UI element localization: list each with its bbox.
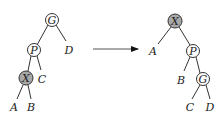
edge-g-d bbox=[206, 85, 210, 99]
edge-x-p bbox=[179, 27, 190, 45]
after-tree: X P G A B C D bbox=[148, 14, 215, 114]
node-x-label: X bbox=[170, 15, 180, 28]
subtree-d-label: D bbox=[205, 101, 215, 114]
node-g-label: G bbox=[48, 14, 57, 27]
edge-p-x bbox=[28, 56, 31, 71]
node-g-label: G bbox=[199, 73, 208, 86]
edge-x-a bbox=[158, 27, 171, 44]
subtree-c-label: C bbox=[186, 101, 195, 114]
subtree-c-label: C bbox=[38, 73, 47, 86]
edge-p-b bbox=[184, 57, 190, 71]
edge-g-d bbox=[56, 25, 66, 41]
subtree-d-label: D bbox=[64, 44, 74, 57]
node-p-label: P bbox=[188, 45, 197, 58]
subtree-a-label: A bbox=[148, 45, 157, 58]
subtree-a-label: A bbox=[9, 101, 18, 114]
rotation-diagram: G P X D C A B X P G A B C D bbox=[0, 0, 222, 116]
edge-p-c bbox=[37, 56, 41, 70]
node-p-label: P bbox=[29, 44, 38, 57]
subtree-b-label: B bbox=[26, 101, 35, 114]
subtree-b-label: B bbox=[176, 74, 185, 87]
edge-x-b bbox=[28, 85, 31, 99]
edge-x-a bbox=[17, 85, 23, 99]
edge-g-p bbox=[37, 25, 48, 45]
edge-g-c bbox=[192, 85, 200, 99]
node-x-label: X bbox=[21, 72, 31, 85]
before-tree: G P X D C A B bbox=[9, 14, 74, 115]
edge-p-g bbox=[196, 57, 200, 73]
